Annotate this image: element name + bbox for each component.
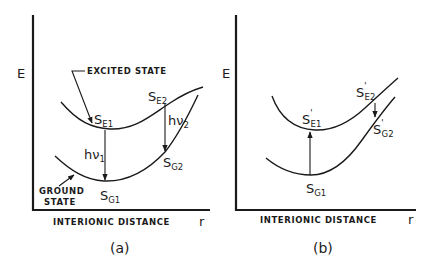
panel-a-x-axis-symbol: r <box>199 214 205 229</box>
panel-a-y-axis-label: E <box>17 66 25 81</box>
panel-b-x-axis-label: INTERIONIC DISTANCE <box>260 215 377 225</box>
panel-a-sg2-label: SG2 <box>163 155 183 172</box>
panel-b-sg2-prime-label: S'G2 <box>373 118 394 139</box>
panel-b-sg1-label: SG1 <box>306 181 326 198</box>
configuration-coordinate-diagram: E INTERIONIC DISTANCE r EXCITED STATE GR… <box>0 0 435 274</box>
panel-b-axes <box>236 15 416 210</box>
panel-a-x-axis-label: INTERIONIC DISTANCE <box>53 217 170 227</box>
panel-b: E INTERIONIC DISTANCE r S'E1 S'E2 S'G2 S… <box>222 15 416 256</box>
panel-a-hv1-label: hν1 <box>84 147 105 164</box>
panel-a-excited-state-label: EXCITED STATE <box>87 66 167 76</box>
panel-a-ground-label-line2: STATE <box>44 197 76 207</box>
panel-a-ground-state-leader-arrow <box>59 175 74 186</box>
panel-b-y-axis-label: E <box>222 66 230 81</box>
panel-b-x-axis-symbol: r <box>408 212 414 227</box>
panel-a-sg1-label: SG1 <box>100 188 120 205</box>
panel-b-se1-prime-label: S'E1 <box>302 108 321 129</box>
panel-a-se2-label: SE2 <box>148 89 167 106</box>
panel-a: E INTERIONIC DISTANCE r EXCITED STATE GR… <box>17 15 210 256</box>
panel-b-caption: (b) <box>313 240 333 256</box>
panel-a-ground-label-line1: GROUND <box>39 186 84 196</box>
panel-a-hv2-label: hν2 <box>168 113 189 130</box>
panel-a-caption: (a) <box>110 240 130 256</box>
panel-a-se1-label: SE1 <box>94 112 113 129</box>
panel-b-se2-prime-label: S'E2 <box>356 81 375 102</box>
